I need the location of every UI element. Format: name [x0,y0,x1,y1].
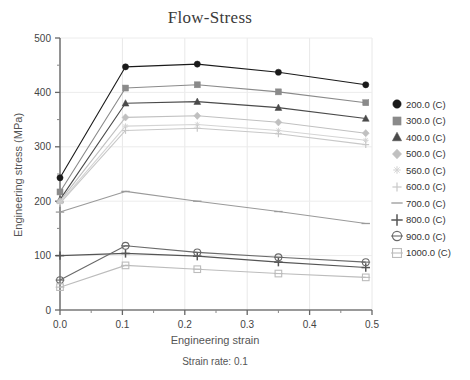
data-series-1000-0-c- [56,262,371,290]
legend-label: 600.0 (C) [406,181,446,192]
legend-marker-dash-icon [388,195,406,211]
data-series-800-0-c- [56,249,370,272]
legend-label: 560.0 (C) [406,165,446,176]
legend-item-900-0-c-[interactable]: 900.0 (C) [388,228,470,245]
data-series-200-0-c- [57,61,369,181]
legend-item-700-0-c-[interactable]: 700.0 (C) [388,195,470,212]
x-tick-label: 0.2 [178,319,192,330]
legend-marker-filled-square-icon [388,113,406,129]
legend-item-600-0-c-[interactable]: 600.0 (C) [388,179,470,196]
y-tick-label: 0 [45,305,51,316]
x-axis-title: Engineering strain [171,334,260,346]
y-tick-label: 500 [34,33,51,44]
x-tick-label: 0.0 [53,319,67,330]
data-series-300-0-c- [57,82,369,195]
legend-label: 200.0 (C) [406,99,446,110]
legend-item-560-0-c-[interactable]: 560.0 (C) [388,162,470,179]
legend-label: 800.0 (C) [406,214,446,225]
y-tick-label: 400 [34,87,51,98]
legend-item-1000-0-c-[interactable]: 1000.0 (C) [388,245,470,262]
x-tick-label: 0.3 [240,319,254,330]
legend-marker-square-dash-icon [388,245,406,261]
x-tick-label: 0.5 [365,319,379,330]
legend-marker-filled-triangle-icon [388,129,406,145]
legend-item-300-0-c-[interactable]: 300.0 (C) [388,113,470,130]
chart-subtitle: Strain rate: 0.1 [182,356,248,367]
legend-label: 1000.0 (C) [406,247,451,258]
chart-legend: 200.0 (C)300.0 (C)400.0 (C)500.0 (C)560.… [388,96,470,261]
legend-marker-plus-icon [388,179,406,195]
y-tick-label: 200 [34,196,51,207]
data-series-600-0-c- [57,125,370,207]
x-tick-label: 0.1 [115,319,129,330]
data-series-700-0-c- [56,191,370,223]
legend-item-500-0-c-[interactable]: 500.0 (C) [388,146,470,163]
y-axis-title: Engineering stress (MPa) [12,113,24,237]
y-tick-label: 100 [34,250,51,261]
legend-label: 400.0 (C) [406,132,446,143]
legend-label: 500.0 (C) [406,148,446,159]
legend-marker-filled-circle-icon [388,96,406,112]
x-tick-label: 0.4 [303,319,317,330]
legend-label: 300.0 (C) [406,115,446,126]
flow-stress-chart-screenshot: Flow-Stress 01002003004005000.00.10.20.3… [0,0,470,380]
legend-marker-big-plus-icon [388,212,406,228]
legend-marker-diamond-icon [388,146,406,162]
legend-item-800-0-c-[interactable]: 800.0 (C) [388,212,470,229]
data-series-900-0-c- [56,242,371,283]
y-tick-label: 300 [34,141,51,152]
axis-tick-labels: 01002003004005000.00.10.20.30.40.5 [34,33,379,331]
legend-label: 700.0 (C) [406,198,446,209]
legend-marker-circle-dash-icon [388,228,406,244]
legend-item-400-0-c-[interactable]: 400.0 (C) [388,129,470,146]
legend-marker-small-star-icon [388,162,406,178]
legend-label: 900.0 (C) [406,231,446,242]
data-series-400-0-c- [57,98,370,202]
legend-item-200-0-c-[interactable]: 200.0 (C) [388,96,470,113]
